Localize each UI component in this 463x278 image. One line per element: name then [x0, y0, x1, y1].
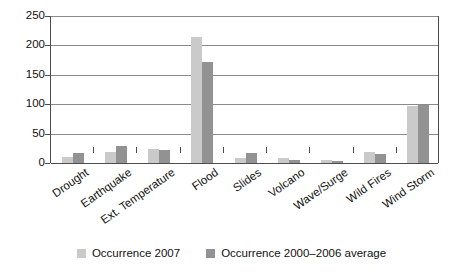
- x-tick-2: [136, 147, 137, 153]
- y-tick-mark-250: [45, 16, 50, 17]
- x-tick-3: [180, 147, 181, 153]
- x-tick-1: [93, 147, 94, 153]
- y-tick-mark-200: [45, 45, 50, 46]
- bar-slides-series-2: [246, 153, 257, 163]
- bar-slides-series-1: [235, 158, 246, 163]
- chart-legend: Occurrence 2007Occurrence 2000–2006 aver…: [0, 247, 463, 259]
- bar-wind-storm-series-2: [418, 105, 429, 163]
- y-tick-mark-150: [45, 75, 50, 76]
- bars-layer: [51, 16, 438, 163]
- y-tick-mark-100: [45, 104, 50, 105]
- legend-label-1: Occurrence 2007: [92, 247, 180, 259]
- bar-volcano-series-2: [289, 160, 300, 163]
- bar-flood-series-2: [202, 62, 213, 163]
- bar-volcano-series-1: [278, 158, 289, 163]
- bar-wild-fires-series-1: [364, 152, 375, 163]
- y-tick-label-50: 50: [1, 128, 45, 140]
- legend-swatch-icon-2: [206, 249, 215, 258]
- x-tick-8: [396, 147, 397, 153]
- y-tick-label-100: 100: [1, 98, 45, 110]
- legend-swatch-icon-1: [77, 249, 86, 258]
- y-tick-label-150: 150: [1, 69, 45, 81]
- bar-earthquake-series-2: [116, 146, 127, 163]
- bar-chart: 050100150200250 DroughtEarthquakeExt. Te…: [0, 0, 463, 278]
- y-tick-label-200: 200: [1, 40, 45, 52]
- legend-item-1[interactable]: Occurrence 2007: [77, 247, 180, 259]
- gridline-0: [51, 163, 438, 164]
- y-axis: 050100150200250: [0, 16, 45, 163]
- plot-area: [50, 16, 439, 163]
- bar-ext-temperature-series-1: [148, 149, 159, 163]
- y-tick-label-250: 250: [1, 10, 45, 22]
- bar-wave-surge-series-2: [332, 161, 343, 163]
- y-tick-mark-0: [45, 163, 50, 164]
- bar-earthquake-series-1: [105, 152, 116, 163]
- bar-ext-temperature-series-2: [159, 150, 170, 163]
- x-tick-4: [223, 147, 224, 153]
- x-tick-5: [266, 147, 267, 153]
- x-axis-labels: DroughtEarthquakeExt. TemperatureFloodSl…: [0, 166, 463, 230]
- x-tick-6: [309, 147, 310, 153]
- x-tick-7: [353, 147, 354, 153]
- y-tick-mark-50: [45, 134, 50, 135]
- bar-wave-surge-series-1: [321, 160, 332, 163]
- bar-wind-storm-series-1: [407, 106, 418, 163]
- bar-drought-series-1: [62, 157, 73, 163]
- bar-wild-fires-series-2: [375, 154, 386, 163]
- x-axis-label-drought: Drought: [15, 166, 90, 224]
- bar-flood-series-1: [191, 37, 202, 163]
- bar-drought-series-2: [73, 153, 84, 163]
- legend-item-2[interactable]: Occurrence 2000–2006 average: [206, 247, 386, 259]
- legend-label-2: Occurrence 2000–2006 average: [221, 247, 386, 259]
